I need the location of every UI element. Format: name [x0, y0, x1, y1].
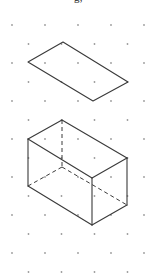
- grid-dot: [28, 233, 30, 235]
- grid-dot: [143, 100, 145, 102]
- grid-dot: [127, 271, 129, 273]
- grid-dot: [110, 252, 112, 254]
- grid-dot: [77, 100, 79, 102]
- grid-dot: [110, 62, 112, 64]
- grid-dot: [44, 176, 46, 178]
- grid-dot: [11, 24, 13, 26]
- parallelogram-top: [28, 42, 128, 101]
- grid-dot: [11, 62, 13, 64]
- grid-dot: [143, 138, 145, 140]
- grid-dot: [28, 119, 30, 121]
- grid-dot: [143, 214, 145, 216]
- cuboid-edge-top_front-to-top_right: [92, 158, 127, 178]
- cuboid-edge-bottom_back-to-bottom_right: [62, 167, 127, 205]
- grid-dot: [28, 271, 30, 273]
- grid-dot: [11, 214, 13, 216]
- grid-dot: [127, 43, 129, 45]
- grid-dot: [127, 119, 129, 121]
- cuboid-edge-top_left-to-top_front: [28, 139, 92, 178]
- grid-dot: [94, 233, 96, 235]
- grid-dot: [94, 195, 96, 197]
- cuboid-edge-bottom_front-to-bottom_right: [92, 205, 127, 225]
- grid-dot: [94, 81, 96, 83]
- grid-dot: [44, 100, 46, 102]
- cuboid-hidden-edges: [28, 120, 127, 205]
- grid-dot: [77, 252, 79, 254]
- cuboid-edge-bottom_left-to-bottom_front: [28, 186, 92, 225]
- grid-dot: [77, 138, 79, 140]
- grid-dot: [77, 62, 79, 64]
- grid-dot: [44, 214, 46, 216]
- grid-dot: [61, 195, 63, 197]
- grid-dot: [143, 176, 145, 178]
- grid-dot: [143, 62, 145, 64]
- grid-dot: [110, 138, 112, 140]
- grid-dot: [94, 271, 96, 273]
- grid-dot: [143, 252, 145, 254]
- grid-dot: [61, 271, 63, 273]
- figure-layer: [28, 42, 128, 225]
- grid-dot: [11, 176, 13, 178]
- grid-dot: [44, 62, 46, 64]
- cuboid-solid-edges: [28, 120, 127, 225]
- grid-dot: [110, 100, 112, 102]
- grid-dot: [94, 157, 96, 159]
- grid-dot: [127, 233, 129, 235]
- grid-dot: [11, 100, 13, 102]
- grid-dot: [28, 81, 30, 83]
- grid-dot: [11, 138, 13, 140]
- grid-dot: [44, 138, 46, 140]
- grid-dot: [44, 24, 46, 26]
- grid-dot: [110, 24, 112, 26]
- grid-dot: [11, 252, 13, 254]
- grid-dot: [77, 24, 79, 26]
- grid-dot: [61, 233, 63, 235]
- grid-dot: [110, 176, 112, 178]
- grid-dot: [44, 252, 46, 254]
- cuboid-edge-top_back-to-top_left: [28, 120, 62, 139]
- grid-dot: [94, 43, 96, 45]
- grid-dot: [28, 195, 30, 197]
- grid-dot: [94, 119, 96, 121]
- grid-dot: [143, 24, 145, 26]
- dot-grid-layer: [11, 24, 145, 273]
- worksheet-page: g,: [0, 0, 157, 279]
- cuboid-edge-top_right-to-top_back: [62, 120, 127, 158]
- isometric-drawing-canvas: [0, 0, 157, 279]
- grid-dot: [28, 43, 30, 45]
